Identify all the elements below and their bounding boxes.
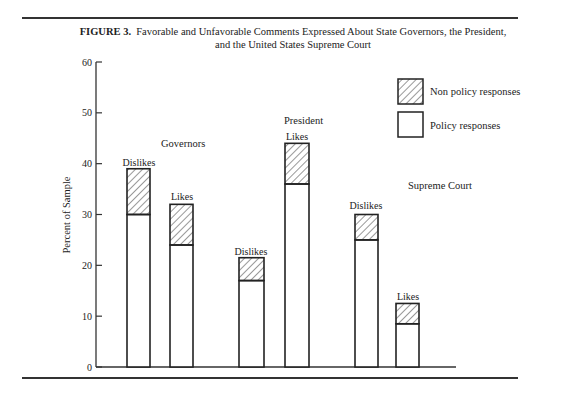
legend-label-non-policy: Non policy responses [430,86,520,97]
legend: Non policy responses Policy responses [398,79,520,137]
legend-swatch-non-policy [398,79,423,104]
bar-segment-non-policy [285,143,309,184]
y-tick-label: 40 [82,158,92,169]
bar-sc-likes [396,303,419,367]
chart-canvas: 0102030405060 Percent of Sample Governor… [0,0,586,395]
bar-label-pres-likes: Likes [286,131,308,142]
bar-sc-dislikes [355,215,378,368]
y-tick-label: 50 [82,107,92,118]
group-label-governors: Governors [161,138,205,149]
bar-segment-policy [170,245,193,367]
bar-segment-policy [355,240,378,367]
bar-label-sc-likes: Likes [397,291,419,302]
bottom-rule [22,377,518,379]
bar-segment-non-policy [127,169,150,215]
bar-label-gov-likes: Likes [171,191,193,202]
bar-label-sc-dislikes: Dislikes [350,200,383,211]
bar-segment-non-policy [355,215,378,240]
bar-gov-likes [170,204,193,367]
bar-segment-policy [239,281,264,367]
bar-segment-policy [127,215,150,368]
y-tick-label: 20 [82,260,92,271]
legend-label-policy: Policy responses [430,120,500,131]
y-axis: 0102030405060 [82,57,102,373]
bar-label-gov-dislikes: Dislikes [123,157,156,168]
y-axis-label: Percent of Sample [61,176,72,253]
bar-pres-dislikes [239,258,264,367]
y-tick-label: 60 [82,57,92,68]
bar-segment-non-policy [170,204,193,245]
y-tick-label: 10 [82,311,92,322]
y-tick-label: 0 [87,362,92,373]
bar-segment-policy [285,184,309,367]
bar-gov-dislikes [127,169,150,367]
bar-segment-non-policy [396,303,419,323]
bars [127,143,419,367]
bar-segment-policy [396,324,419,367]
bar-pres-likes [285,143,309,367]
bar-segment-non-policy [239,258,264,281]
group-label-president: President [284,115,323,126]
y-tick-label: 30 [82,209,92,220]
group-label-supreme-court: Supreme Court [408,180,472,191]
bar-label-pres-dislikes: Dislikes [235,246,268,257]
legend-swatch-policy [398,112,423,137]
